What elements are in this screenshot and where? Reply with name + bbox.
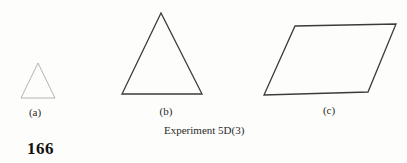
parallelogram-c-shape [264,24,396,95]
small-triangle-a-shape [21,63,55,98]
figure-caption: Experiment 5D(3) [164,124,244,136]
large-triangle-b-shape [122,13,202,94]
shape-label-a: (a) [20,106,50,118]
shape-label-c: (c) [314,104,344,116]
shapes-canvas [0,0,407,163]
page-number: 166 [27,140,54,158]
scanned-figure-page: (a) (b) (c) Experiment 5D(3) 166 [0,0,407,163]
shape-label-b: (b) [151,105,181,117]
